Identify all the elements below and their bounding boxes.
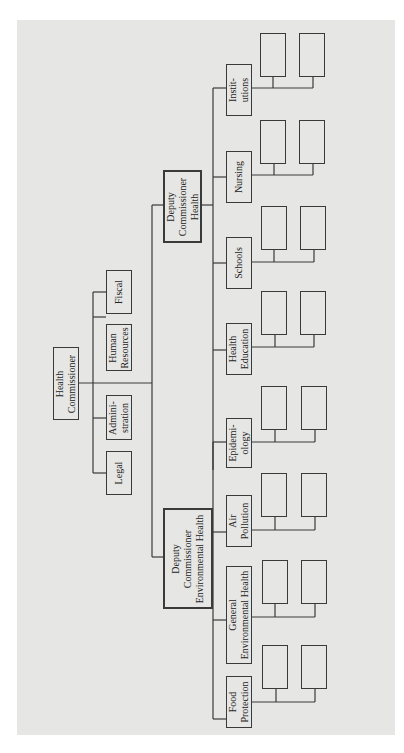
epidemiology-label: Epidemi- ology <box>227 424 251 461</box>
institutions-label: Instit- utions <box>227 78 251 102</box>
legal-box: Legal <box>106 451 132 495</box>
sub-unit-box <box>262 645 288 689</box>
schools-box: Schools <box>226 237 252 289</box>
deputy-health-box: Deputy Commissioner Health <box>163 170 202 243</box>
sub-unit-box <box>260 120 286 164</box>
general-env-health-box: General Environmental Health <box>226 566 252 664</box>
sub-unit-box <box>261 206 287 250</box>
health-commissioner-box: Health Commissioner <box>53 347 79 420</box>
administration-box: Admini- stration <box>106 395 132 440</box>
deputy-env-health-box: Deputy Commissioner Environmental Health <box>163 508 213 609</box>
air-pollution-box: Air Pollution <box>226 495 252 547</box>
deputy-env-health-label: Deputy Commissioner Environmental Health <box>170 514 206 603</box>
nursing-box: Nursing <box>226 151 252 203</box>
epidemiology-box: Epidemi- ology <box>226 418 252 468</box>
sub-unit-box <box>261 473 287 517</box>
health-commissioner-label: Health Commissioner <box>54 354 78 412</box>
health-education-box: Health Education <box>226 323 252 375</box>
sub-unit-box <box>301 560 327 604</box>
fiscal-box: Fiscal <box>106 270 132 314</box>
sub-unit-box <box>299 120 325 164</box>
air-pollution-label: Air Pollution <box>227 503 251 540</box>
sub-unit-box <box>301 645 327 689</box>
institutions-box: Instit- utions <box>226 64 252 116</box>
deputy-health-label: Deputy Commissioner Health <box>165 177 201 235</box>
fiscal-label: Fiscal <box>113 280 125 304</box>
legal-label: Legal <box>113 462 125 485</box>
sub-unit-box <box>261 291 287 335</box>
schools-label: Schools <box>233 247 245 279</box>
sub-unit-box <box>299 33 325 77</box>
sub-unit-box <box>260 33 286 77</box>
food-protection-box: Food Protection <box>226 676 252 728</box>
nursing-label: Nursing <box>233 161 245 193</box>
health-education-label: Health Education <box>227 329 251 370</box>
human-resources-label: Human Resources <box>107 327 131 368</box>
general-env-health-label: General Environmental Health <box>227 571 251 660</box>
administration-label: Admini- stration <box>107 401 131 435</box>
sub-unit-box <box>301 473 327 517</box>
sub-unit-box <box>300 206 326 250</box>
sub-unit-box <box>300 291 326 335</box>
sub-unit-box <box>301 386 327 430</box>
human-resources-box: Human Resources <box>106 324 132 371</box>
sub-unit-box <box>262 560 288 604</box>
sub-unit-box <box>261 386 287 430</box>
food-protection-label: Food Protection <box>227 681 251 722</box>
